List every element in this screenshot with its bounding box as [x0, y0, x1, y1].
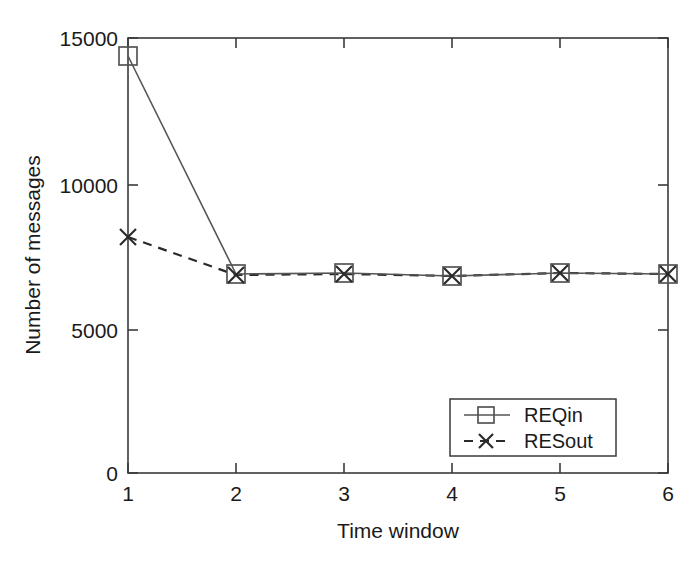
x-tick-label-3: 3	[338, 482, 350, 505]
legend-entry-reqin: REQin	[464, 404, 583, 426]
x-axis-title: Time window	[337, 519, 460, 542]
y-tick-label-15000: 15000	[60, 27, 118, 50]
y-tick-label-5000: 5000	[71, 319, 118, 342]
y-tick-label-0: 0	[106, 462, 118, 485]
y-tick-label-10000: 10000	[60, 174, 118, 197]
chart-legend: REQin RESout	[450, 399, 616, 456]
x-tick-label-6: 6	[662, 482, 674, 505]
x-tick-label-2: 2	[230, 482, 242, 505]
y-axis-title: Number of messages	[21, 155, 44, 355]
line-chart: 0 5000 10000 15000 1 2 3 4 5 6 Time wind…	[0, 0, 699, 561]
x-tick-label-1: 1	[122, 482, 134, 505]
series-line-reqin	[128, 56, 668, 276]
legend-label-resout: RESout	[524, 430, 593, 452]
x-tick-label-5: 5	[554, 482, 566, 505]
chart-figure: 0 5000 10000 15000 1 2 3 4 5 6 Time wind…	[0, 0, 699, 561]
x-tick-label-4: 4	[446, 482, 458, 505]
series-markers-reqin	[119, 47, 677, 285]
series-line-resout	[128, 237, 668, 276]
legend-label-reqin: REQin	[524, 404, 583, 426]
